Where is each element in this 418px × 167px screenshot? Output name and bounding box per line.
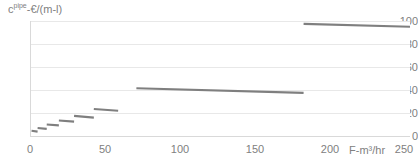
series-0-segment-2 (47, 125, 59, 126)
series-0-segment-0 (32, 131, 38, 132)
chart-container: cpipe-€/(m-l) 100 80 60 40 20 0 0 50 100… (0, 0, 418, 167)
plot-area (0, 0, 418, 167)
plot-background (30, 21, 410, 136)
series-0-segment-3 (59, 120, 74, 121)
series-0-segment-1 (38, 128, 47, 129)
